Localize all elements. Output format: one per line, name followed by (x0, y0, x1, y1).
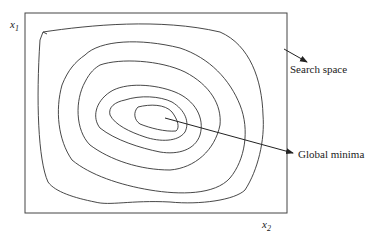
contour-5 (110, 97, 187, 140)
global-minima-arrow (165, 118, 293, 153)
contour-start-tick (43, 32, 47, 34)
contour-3 (78, 61, 220, 170)
contour-2 (58, 42, 245, 193)
contour-6 (135, 105, 178, 131)
contour-diagram: x1 x2 Search space Global minima (0, 0, 378, 238)
contour-1 (38, 24, 263, 203)
x-axis-label: x2 (261, 218, 271, 233)
search-space-label: Search space (290, 63, 347, 75)
y-axis-label: x1 (9, 18, 19, 33)
contour-4 (96, 85, 202, 153)
global-minima-label: Global minima (298, 148, 364, 160)
